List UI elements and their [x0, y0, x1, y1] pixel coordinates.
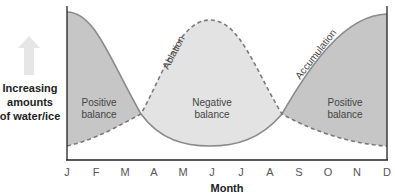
negative-balance-label-line1: Negative	[192, 97, 232, 108]
month-label: S	[295, 166, 302, 178]
month-label: O	[324, 166, 333, 178]
month-label: J	[64, 166, 70, 178]
negative-balance-area	[141, 20, 282, 146]
month-label: A	[150, 166, 158, 178]
month-label: D	[383, 166, 391, 178]
chart: Increasing amounts of water/ice J F M A …	[0, 0, 395, 195]
positive-balance-right-label-line1: Positive	[327, 97, 362, 108]
positive-balance-left-area	[67, 12, 141, 146]
positive-balance-left-label-line1: Positive	[81, 97, 116, 108]
month-label: J	[209, 166, 215, 178]
x-axis-label: Month	[211, 182, 244, 194]
positive-balance-right-label-line2: balance	[327, 109, 362, 120]
month-label: F	[93, 166, 100, 178]
month-label: J	[238, 166, 244, 178]
negative-balance-label-line2: balance	[194, 109, 229, 120]
y-axis-label-line2: amounts	[7, 96, 53, 108]
positive-balance-left-label-line2: balance	[81, 109, 116, 120]
month-label: M	[178, 166, 187, 178]
month-label: M	[120, 166, 129, 178]
y-axis-label-line3: of water/ice	[0, 110, 60, 122]
up-arrow-icon	[18, 36, 40, 75]
month-label: A	[266, 166, 274, 178]
y-axis-label-line1: Increasing	[2, 82, 57, 94]
month-label: N	[353, 166, 361, 178]
